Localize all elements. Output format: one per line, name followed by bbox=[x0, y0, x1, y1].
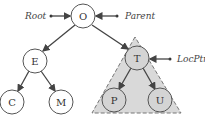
pointer-root: Root bbox=[24, 11, 70, 21]
edge-O-T bbox=[92, 25, 128, 49]
pointer-parent: Parent bbox=[96, 11, 155, 21]
pointer-locptr: LocPtr bbox=[150, 54, 205, 64]
node-label: U bbox=[156, 95, 164, 106]
node-O: O bbox=[71, 4, 95, 28]
node-P: P bbox=[102, 88, 126, 112]
node-U: U bbox=[148, 88, 172, 112]
node-label: P bbox=[111, 95, 118, 106]
node-label: T bbox=[134, 53, 141, 64]
parent-label: Parent bbox=[124, 11, 155, 21]
node-C: C bbox=[0, 90, 24, 114]
edge-E-C bbox=[18, 71, 29, 91]
locptr-label: LocPtr bbox=[176, 54, 205, 64]
tree-diagram: Root Parent LocPtr O E T C M P U bbox=[0, 0, 205, 117]
edge-O-E bbox=[43, 25, 75, 51]
node-M: M bbox=[49, 90, 73, 114]
edge-E-M bbox=[41, 71, 55, 91]
node-T: T bbox=[125, 46, 149, 70]
node-E: E bbox=[23, 49, 47, 73]
node-label: C bbox=[8, 97, 16, 108]
root-label: Root bbox=[24, 11, 47, 21]
node-label: E bbox=[31, 56, 38, 67]
node-label: M bbox=[56, 97, 66, 108]
node-label: O bbox=[79, 11, 87, 22]
